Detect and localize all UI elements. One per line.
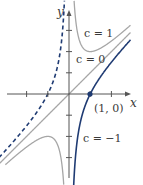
y-axis-arrow-icon — [67, 10, 72, 16]
point-1-0-marker — [87, 91, 92, 96]
label-c-equals-minus-1: c = −1 — [83, 132, 122, 145]
x-axis-label: x — [130, 96, 137, 110]
curve-c-minus-1-left-dashed — [0, 1, 64, 158]
solution-curves-diagram: x y c = 1 c = 0 c = −1 (1, 0) — [0, 0, 143, 185]
curve-c-1-left — [5, 136, 63, 184]
label-c-equals-0: c = 0 — [76, 53, 105, 66]
label-point-1-0: (1, 0) — [94, 102, 124, 115]
label-c-equals-1: c = 1 — [84, 27, 113, 40]
y-axis-label: y — [56, 5, 64, 19]
